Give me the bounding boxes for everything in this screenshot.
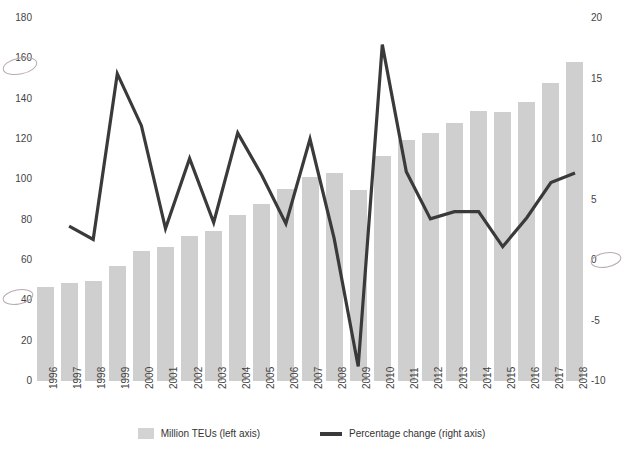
bar-2001: [157, 247, 174, 381]
bar-2016: [518, 102, 535, 381]
x-axis-tick-2001: 2001: [169, 367, 179, 389]
bar-2015: [494, 112, 511, 381]
x-axis-tick-1996: 1996: [49, 367, 59, 389]
bar-2017: [542, 83, 559, 381]
x-axis-tick-1997: 1997: [73, 367, 83, 389]
bar-2006: [277, 189, 294, 381]
bar-2000: [133, 251, 150, 381]
bar-2008: [326, 173, 343, 381]
legend-label-line: Percentage change (right axis): [349, 428, 485, 439]
bar-2009: [350, 190, 367, 381]
bars-layer: [0, 0, 623, 381]
x-axis-tick-2016: 2016: [531, 367, 541, 389]
bar-2011: [398, 140, 415, 381]
bar-2012: [422, 133, 439, 381]
chart-container: 020406080100120140160180 -10-505101520 1…: [0, 0, 623, 450]
x-axis-tick-2015: 2015: [507, 367, 517, 389]
legend-item-line: Percentage change (right axis): [320, 428, 485, 439]
bar-2004: [229, 215, 246, 381]
x-axis-tick-2005: 2005: [266, 367, 276, 389]
chart-legend: Million TEUs (left axis) Percentage chan…: [0, 428, 623, 439]
bar-2014: [470, 111, 487, 381]
bar-swatch-icon: [138, 428, 154, 439]
x-axis-tick-2000: 2000: [145, 367, 155, 389]
x-axis-tick-2004: 2004: [242, 367, 252, 389]
bar-2005: [253, 204, 270, 381]
bar-2003: [205, 231, 222, 381]
legend-label-bar: Million TEUs (left axis): [161, 428, 260, 439]
bar-2007: [302, 177, 319, 381]
x-axis-tick-2018: 2018: [579, 367, 589, 389]
x-axis-tick-2006: 2006: [290, 367, 300, 389]
legend-item-bar: Million TEUs (left axis): [138, 428, 260, 439]
x-axis-tick-2012: 2012: [434, 367, 444, 389]
x-axis-tick-1998: 1998: [97, 367, 107, 389]
line-swatch-icon: [320, 432, 342, 436]
x-axis-tick-1999: 1999: [121, 367, 131, 389]
x-axis-tick-2011: 2011: [410, 367, 420, 389]
x-axis-tick-2013: 2013: [459, 367, 469, 389]
bar-2018: [566, 62, 583, 381]
x-axis-tick-2003: 2003: [218, 367, 228, 389]
x-axis-tick-2008: 2008: [338, 367, 348, 389]
bar-1999: [109, 266, 126, 381]
x-axis-tick-2010: 2010: [386, 367, 396, 389]
x-axis-tick-2014: 2014: [483, 367, 493, 389]
x-axis-tick-2007: 2007: [314, 367, 324, 389]
bar-2010: [374, 156, 391, 381]
bar-2013: [446, 123, 463, 381]
x-axis-tick-2017: 2017: [555, 367, 565, 389]
x-axis-tick-2009: 2009: [362, 367, 372, 389]
bar-2002: [181, 236, 198, 381]
x-axis-tick-2002: 2002: [194, 367, 204, 389]
